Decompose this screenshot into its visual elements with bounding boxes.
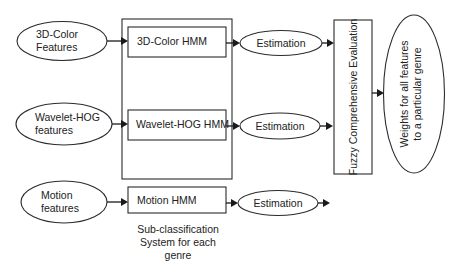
svg-text:3D-Color HMM: 3D-Color HMM [137,35,207,47]
arrow-estimation2-to-fuzzy [320,122,333,130]
hmm-wavelet-hog: Wavelet-HOG HMM [128,110,229,140]
input-motion-features: Motion features [21,181,107,223]
svg-text:3D-Color: 3D-Color [36,28,79,40]
input-wavelet-hog-features: Wavelet-HOG features [16,103,112,145]
svg-text:Motion HMM: Motion HMM [137,194,197,206]
svg-text:features: features [41,202,79,214]
genre-classification-diagram: 3D-Color Features Wavelet-HOG features M… [0,0,452,270]
svg-text:Features: Features [36,41,77,53]
svg-text:Fuzzy Comprehensive Evaluation: Fuzzy Comprehensive Evaluation [347,19,359,176]
hmm-3d-color: 3D-Color HMM [128,27,226,57]
arrow-motion-to-hmm [107,198,128,206]
svg-text:features: features [35,124,73,136]
svg-text:System for each: System for each [140,236,216,248]
svg-text:Weights for all features: Weights for all features [398,40,410,147]
arrow-fuzzy-to-output [372,89,384,97]
hmm-motion: Motion HMM [128,187,226,213]
svg-text:Wavelet-HOG: Wavelet-HOG [35,111,100,123]
input-3d-color-features: 3D-Color Features [17,22,107,61]
svg-text:genre: genre [165,249,192,261]
svg-text:to a particular genre: to a particular genre [411,47,423,141]
svg-text:Motion: Motion [41,189,73,201]
svg-text:Wavelet-HOG HMM: Wavelet-HOG HMM [136,118,229,130]
arrow-estimation1-to-fuzzy [322,39,334,47]
estimation-3: Estimation [238,191,318,216]
output-weights-ellipse: Weights for all features to a particular… [384,15,445,173]
svg-text:Sub-classification: Sub-classification [137,223,219,235]
svg-text:Estimation: Estimation [256,37,305,49]
fuzzy-evaluation-box: Fuzzy Comprehensive Evaluation [334,19,372,176]
estimation-2: Estimation [240,113,320,139]
svg-text:Estimation: Estimation [255,120,304,132]
arrow-hmm3-to-estimation [226,199,238,207]
svg-text:Estimation: Estimation [253,197,302,209]
estimation-1: Estimation [240,31,322,56]
subclassification-caption: Sub-classification System for each genre [137,223,219,261]
arrow-estimation3-out [318,199,330,207]
